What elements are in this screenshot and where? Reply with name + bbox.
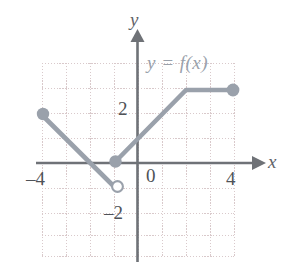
curve-segment-right <box>115 90 234 162</box>
closed-endpoint-right-icon <box>227 84 240 97</box>
y-axis-arrowhead <box>131 29 145 42</box>
y-axis-label: y <box>130 10 138 29</box>
graph-canvas <box>0 0 284 277</box>
x-axis-label: x <box>268 152 276 171</box>
x-axis-arrowhead <box>252 156 266 170</box>
closed-point-origin-icon <box>109 155 121 167</box>
curve-equation-label: y = f(x) <box>147 53 208 72</box>
curve-segment-left <box>42 115 115 187</box>
x-tick-label-4: 4 <box>226 169 236 188</box>
x-tick-label-neg4: –4 <box>26 169 45 188</box>
closed-endpoint-left-icon <box>37 108 49 120</box>
origin-tick-label: 0 <box>146 166 156 185</box>
y-tick-label-neg2: –2 <box>104 203 123 222</box>
open-point-discontinuity-icon <box>112 181 123 192</box>
y-tick-label-2: 2 <box>118 99 128 118</box>
function-graph-figure: y x y = f(x) 2 –2 0 4 –4 <box>0 0 284 277</box>
